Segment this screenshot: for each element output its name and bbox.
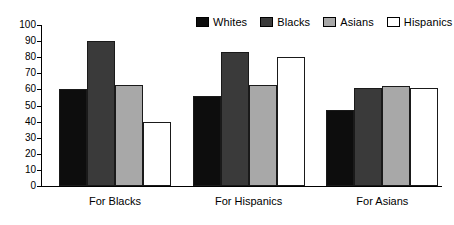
bar-hispanics-for-asians bbox=[410, 88, 438, 186]
x-axis-label-for-blacks: For Blacks bbox=[59, 196, 171, 207]
x-axis-line bbox=[41, 186, 442, 187]
y-tick-label: 0 bbox=[0, 181, 36, 191]
y-tick-mark bbox=[37, 41, 41, 42]
bar-blacks-for-hispanics bbox=[221, 52, 249, 186]
bar-asians-for-blacks bbox=[115, 85, 143, 186]
x-axis-label-for-hispanics: For Hispanics bbox=[193, 196, 305, 207]
y-tick-label: 60 bbox=[0, 84, 36, 94]
y-tick-label: 30 bbox=[0, 133, 36, 143]
bar-whites-for-asians bbox=[326, 110, 354, 186]
y-tick-mark bbox=[37, 122, 41, 123]
y-tick-label: 100 bbox=[0, 20, 36, 30]
y-tick-mark bbox=[37, 73, 41, 74]
y-tick-mark bbox=[37, 154, 41, 155]
x-axis-label-for-asians: For Asians bbox=[326, 196, 438, 207]
bar-hispanics-for-hispanics bbox=[277, 57, 305, 186]
bar-whites-for-hispanics bbox=[193, 96, 221, 186]
bar-blacks-for-blacks bbox=[87, 41, 115, 186]
bar-chart: WhitesBlacksAsiansHispanics 010203040506… bbox=[0, 0, 454, 225]
y-tick-label: 90 bbox=[0, 36, 36, 46]
bar-blacks-for-asians bbox=[354, 88, 382, 186]
y-tick-mark bbox=[37, 106, 41, 107]
y-tick-mark bbox=[37, 186, 41, 187]
y-tick-mark bbox=[37, 89, 41, 90]
y-tick-mark bbox=[37, 57, 41, 58]
y-tick-label: 10 bbox=[0, 165, 36, 175]
y-tick-label: 40 bbox=[0, 117, 36, 127]
bar-whites-for-blacks bbox=[59, 89, 87, 186]
bar-asians-for-asians bbox=[382, 86, 410, 186]
plot-area: 0102030405060708090100 bbox=[41, 25, 442, 186]
y-tick-label: 70 bbox=[0, 68, 36, 78]
bar-hispanics-for-blacks bbox=[143, 122, 171, 186]
y-tick-mark bbox=[37, 138, 41, 139]
y-tick-label: 50 bbox=[0, 101, 36, 111]
y-tick-mark bbox=[37, 25, 41, 26]
y-axis-line bbox=[41, 25, 42, 186]
y-tick-mark bbox=[37, 170, 41, 171]
bar-asians-for-hispanics bbox=[249, 85, 277, 186]
y-tick-label: 20 bbox=[0, 149, 36, 159]
y-tick-label: 80 bbox=[0, 52, 36, 62]
